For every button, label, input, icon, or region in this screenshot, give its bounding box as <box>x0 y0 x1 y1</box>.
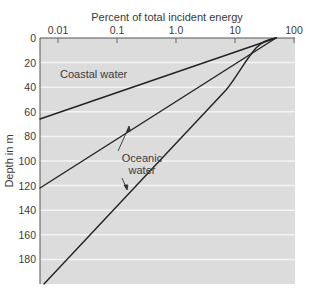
x-tick-label: 1.0 <box>169 24 184 36</box>
oceanic-water-label-line1: Oceanic <box>122 152 163 164</box>
x-axis-label: Percent of total incident energy <box>91 11 243 23</box>
y-tick-label: 80 <box>24 130 36 142</box>
y-tick-label: 40 <box>24 81 36 93</box>
x-tick-label: 0.1 <box>110 24 125 36</box>
oceanic-water-label-line2: water <box>128 164 156 176</box>
y-tick-label: 0 <box>30 32 36 44</box>
y-tick-label: 60 <box>24 106 36 118</box>
x-tick-label: 0.01 <box>48 24 69 36</box>
chart: Percent of total incident energy 0.01 0.… <box>0 0 315 302</box>
y-tick-label: 20 <box>24 57 36 69</box>
x-tick-label: 100 <box>285 24 303 36</box>
y-tick-label: 100 <box>18 155 36 167</box>
coastal-water-label: Coastal water <box>60 68 128 80</box>
y-tick-label: 160 <box>18 229 36 241</box>
y-tick-label: 120 <box>18 180 36 192</box>
y-tick-label: 180 <box>18 253 36 265</box>
x-tick-label: 10 <box>229 24 241 36</box>
y-tick-label: 140 <box>18 204 36 216</box>
y-axis-label: Depth in m <box>3 134 15 187</box>
